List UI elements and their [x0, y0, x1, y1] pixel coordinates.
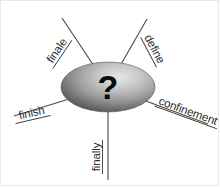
node-finally[interactable]: finally — [90, 140, 103, 174]
center-question-mark: ? — [98, 68, 119, 106]
node-label-confinement: confinement — [157, 95, 220, 128]
node-label-define: define — [142, 33, 167, 66]
diagram-canvas: ? finale define confinement finally fini… — [0, 0, 220, 187]
node-label-finish: finish — [17, 104, 45, 122]
node-define[interactable]: define — [141, 31, 168, 67]
radial-diagram: ? finale define confinement finally fini… — [0, 0, 220, 187]
node-confinement[interactable]: confinement — [155, 94, 220, 129]
node-label-finally: finally — [90, 142, 102, 171]
node-finale[interactable]: finale — [42, 33, 72, 68]
